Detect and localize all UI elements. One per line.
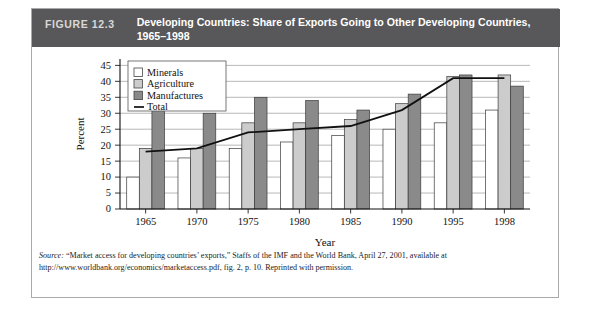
bar	[152, 110, 165, 209]
bar	[306, 100, 319, 209]
figure-root: FIGURE 12.3 Developing Countries: Share …	[0, 0, 589, 310]
bar	[396, 104, 409, 209]
bar	[203, 113, 216, 209]
bar	[434, 123, 447, 209]
bar	[332, 136, 345, 209]
x-axis-tick-label: 1990	[391, 216, 412, 227]
x-axis-tick-label: 1995	[443, 216, 464, 227]
legend-label-manufactures: Manufactures	[147, 90, 203, 101]
x-axis-tick-label: 1985	[340, 216, 361, 227]
y-axis-tick-label: 35	[101, 92, 112, 103]
figure-title-line-1: Developing Countries: Share of Exports G…	[137, 16, 531, 28]
x-axis-tick-label: 1975	[238, 216, 259, 227]
bar	[485, 110, 498, 209]
y-axis-tick-label: 15	[101, 156, 112, 167]
x-axis-title: Year	[315, 236, 336, 248]
bar	[383, 129, 396, 209]
bar	[408, 94, 421, 209]
y-axis-tick-label: 40	[101, 76, 112, 87]
y-axis-tick-label: 5	[106, 187, 111, 198]
bar	[344, 120, 357, 209]
figure-title-line-2: 1965–1998	[137, 30, 546, 44]
bar	[511, 86, 524, 209]
legend-label-agriculture: Agriculture	[147, 78, 194, 89]
bar	[127, 177, 140, 209]
bar	[139, 148, 152, 209]
y-axis-tick-label: 45	[101, 60, 112, 71]
y-axis-tick-label: 0	[106, 203, 111, 214]
x-axis-tick-label: 1965	[135, 216, 156, 227]
chart-plot-area: 0510152025303540451965197019751980198519…	[32, 47, 560, 257]
bar	[229, 148, 242, 209]
x-axis-tick-label: 1980	[289, 216, 310, 227]
bar	[242, 123, 255, 209]
figure-title: Developing Countries: Share of Exports G…	[115, 9, 560, 43]
figure-number-label: FIGURE 12.3	[32, 9, 115, 30]
y-axis-tick-label: 25	[101, 124, 112, 135]
legend-swatch-agriculture	[134, 80, 142, 88]
figure-header-band: FIGURE 12.3 Developing Countries: Share …	[32, 9, 560, 47]
bar	[357, 110, 370, 209]
legend-swatch-minerals	[134, 68, 142, 76]
y-axis-title: Percent	[74, 118, 86, 151]
grouped-bar-chart: 0510152025303540451965197019751980198519…	[32, 47, 560, 257]
bar	[293, 123, 306, 209]
x-axis-tick-label: 1998	[494, 216, 515, 227]
bar	[191, 148, 204, 209]
x-axis-tick-label: 1970	[186, 216, 207, 227]
bar	[178, 158, 191, 209]
bar	[498, 75, 511, 209]
legend-label-total: Total	[147, 101, 168, 112]
bar	[254, 97, 267, 209]
source-note: Source: “Market access for developing co…	[39, 250, 491, 273]
bar	[459, 75, 472, 209]
y-axis-tick-label: 10	[101, 171, 112, 182]
y-axis-tick-label: 20	[101, 140, 112, 151]
y-axis-tick-label: 30	[101, 108, 112, 119]
source-label: Source:	[39, 251, 64, 260]
legend-label-minerals: Minerals	[147, 67, 183, 78]
source-text: “Market access for developing countries’…	[39, 251, 447, 272]
bar	[447, 77, 460, 209]
legend-swatch-manufactures	[134, 91, 142, 99]
bar	[280, 142, 293, 209]
